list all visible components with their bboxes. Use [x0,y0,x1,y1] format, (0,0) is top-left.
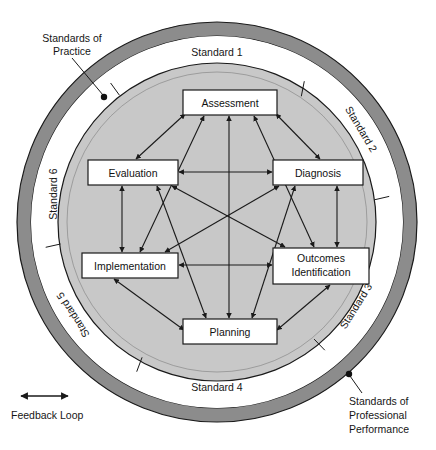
process-box-planning[interactable]: Planning [183,319,277,344]
legend-feedback-loop-label: Feedback Loop [11,409,84,421]
process-box-assessment[interactable]: Assessment [183,90,277,115]
process-box-diagnosis-label: Diagnosis [295,167,341,179]
nursing-process-diagram: Standard 1 Standard 2 Standard 3 Standar… [0,0,436,450]
callout-dot [101,94,107,100]
callout-standards-of-professional-performance: Standards of Professional Performance [346,371,409,435]
callout-dot [346,371,352,377]
callout-professional-performance-line3: Performance [349,423,409,435]
process-box-assessment-label: Assessment [201,97,258,109]
process-box-evaluation[interactable]: Evaluation [88,160,178,185]
callout-standards-of-practice-line1: Standards of [42,32,102,44]
process-box-outcomes-identification[interactable]: Outcomes Identification [273,248,369,284]
process-box-evaluation-label: Evaluation [108,167,157,179]
process-box-diagnosis[interactable]: Diagnosis [273,160,363,185]
process-box-implementation-label: Implementation [94,260,166,272]
process-box-planning-label: Planning [210,326,251,338]
callout-professional-performance-line1: Standards of [349,395,409,407]
legend-feedback-loop: Feedback Loop [11,396,84,421]
callout-standards-of-practice-line2: Practice [53,45,91,57]
process-box-outcomes-identification-label-line1: Outcomes [297,252,345,264]
diagram-canvas: Standard 1 Standard 2 Standard 3 Standar… [0,0,436,450]
ring-label-standard-1: Standard 1 [191,46,243,58]
process-box-outcomes-identification-label-line2: Identification [292,266,351,278]
process-box-implementation[interactable]: Implementation [82,253,178,278]
callout-professional-performance-line2: Professional [349,409,407,421]
ring-label-standard-6: Standard 6 [47,168,59,220]
callout-leader-line [350,376,362,393]
ring-label-standard-4: Standard 4 [191,381,243,393]
